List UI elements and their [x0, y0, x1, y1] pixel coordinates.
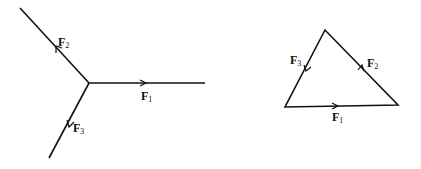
- force-diagram-canvas: F1 F2 F3 F1 F2 F3: [0, 0, 421, 169]
- triangle-label-f1: F1: [332, 110, 343, 125]
- concurrent-forces-figure: F1 F2 F3: [20, 8, 205, 158]
- triangle-label-f3: F3: [290, 53, 301, 68]
- force-triangle: [285, 30, 398, 107]
- label-f3: F3: [73, 121, 84, 136]
- label-f1: F1: [141, 89, 152, 104]
- label-f2: F2: [58, 35, 69, 50]
- triangle-label-f2: F2: [367, 56, 378, 71]
- vector-f3-line: [49, 83, 89, 158]
- vector-f2-line: [20, 8, 89, 83]
- force-triangle-figure: F1 F2 F3: [285, 30, 398, 125]
